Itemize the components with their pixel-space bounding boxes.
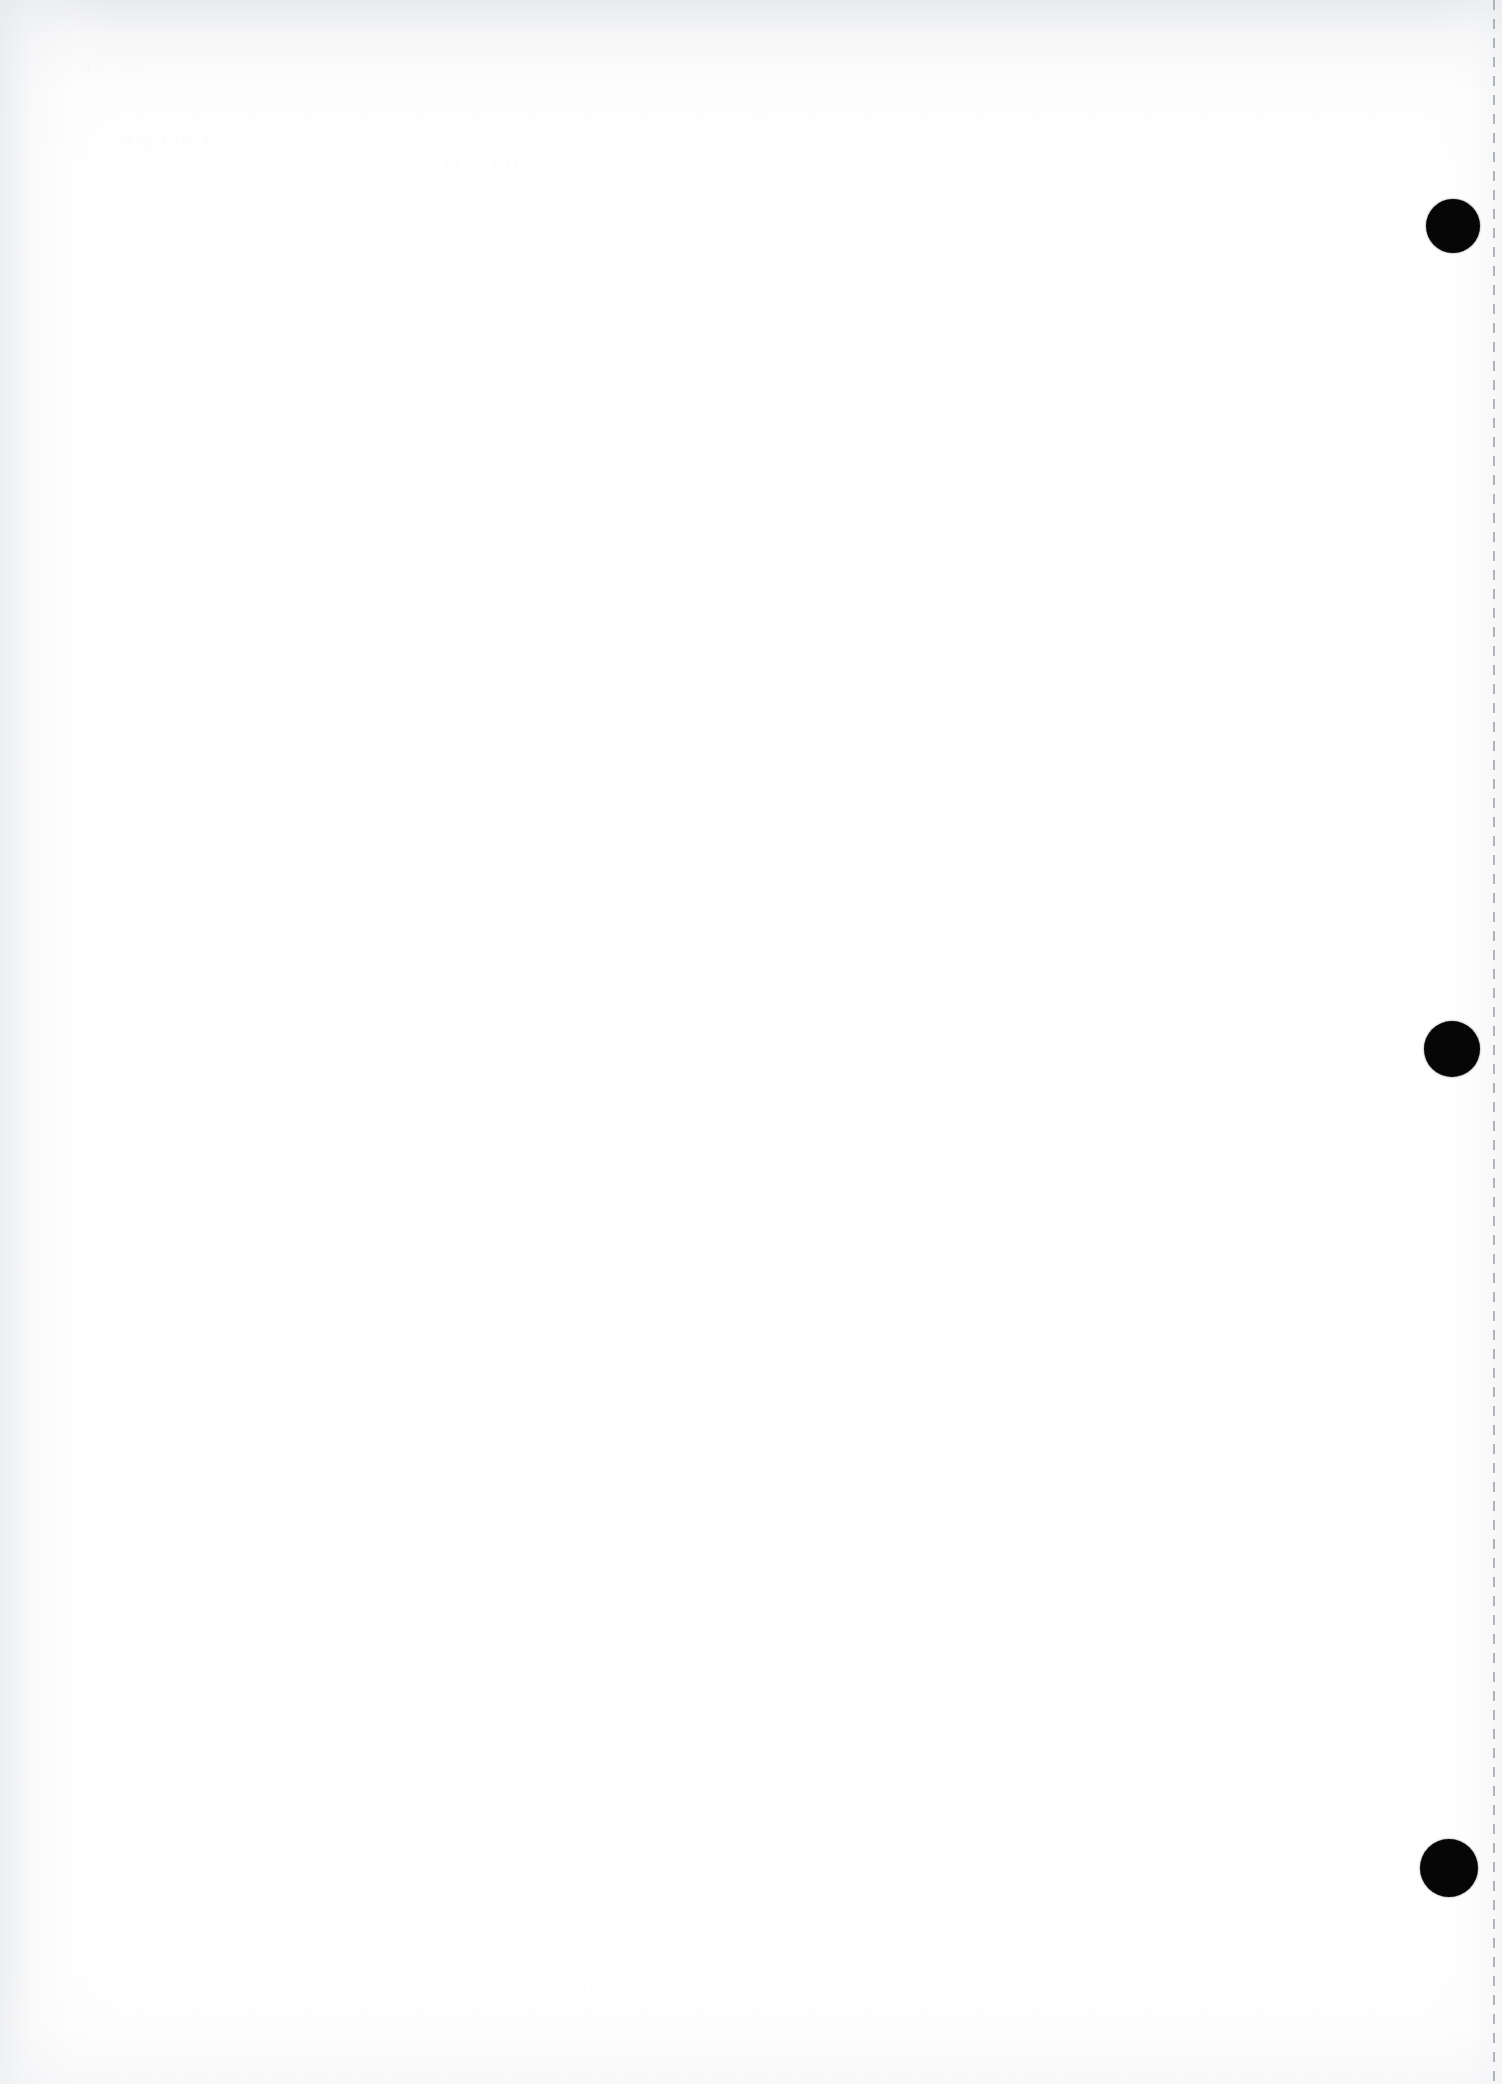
scanned-page: || || | | || ||| | || ||| || | |||| ||| …: [0, 0, 1502, 2084]
punch-hole-middle-icon: [1424, 1021, 1480, 1077]
punch-hole-top-icon: [1426, 199, 1480, 253]
paper-surface: [0, 0, 1502, 2084]
punch-hole-bottom-icon: [1420, 1839, 1478, 1897]
